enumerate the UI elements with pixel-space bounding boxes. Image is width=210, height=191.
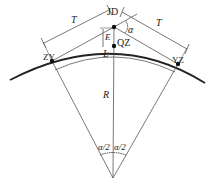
label-l: L — [102, 48, 109, 59]
arc-length-curve — [55, 57, 175, 72]
label-jd: JD — [107, 6, 118, 17]
label-zy: ZY — [43, 52, 55, 62]
circular-curve-diagram: JD QZ ZY YZ T T E L R α α/2 α/2 — [0, 0, 210, 191]
point-jd — [112, 25, 116, 29]
radius-left — [52, 61, 113, 178]
label-yz: YZ — [172, 55, 184, 65]
label-half-angle-left: α/2 — [98, 142, 110, 152]
label-t-left: T — [71, 14, 78, 25]
label-half-angle-right: α/2 — [114, 142, 126, 152]
dim-tick — [185, 44, 189, 54]
label-r: R — [102, 89, 109, 100]
label-qz: QZ — [117, 37, 130, 48]
point-qz — [112, 44, 116, 48]
label-e: E — [104, 32, 111, 42]
label-alpha: α — [128, 24, 134, 35]
radius-right — [113, 64, 178, 178]
dim-tick — [120, 7, 124, 17]
label-t-right: T — [156, 17, 163, 28]
radius-center — [113, 27, 114, 178]
